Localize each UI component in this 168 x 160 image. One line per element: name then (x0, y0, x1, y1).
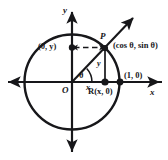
y-axis-label: y (63, 6, 67, 15)
unit-point-label: (1, 0) (124, 71, 142, 80)
origin-label: O (62, 86, 69, 95)
point-marker-P (102, 45, 108, 51)
x-axis-label: x (150, 88, 155, 97)
point-p-label: P (100, 32, 106, 41)
point-marker-y-intercept (69, 44, 75, 50)
point-marker-R (101, 78, 108, 85)
point-r-label: R(x, 0) (88, 87, 113, 96)
segment-x-label: x (86, 84, 90, 92)
point-p-coordinates-label: (cos θ, sin θ) (113, 41, 158, 50)
angle-theta-label: θ (79, 71, 83, 80)
unit-circle-figure: y x O P (cos θ, sin θ) R(x, 0) (1, 0) (0… (0, 0, 168, 160)
y-intercept-point-label: (0, y) (38, 42, 56, 51)
point-marker-unit (117, 79, 124, 86)
segment-y-label: y (97, 60, 101, 68)
angle-arc-theta (87, 68, 92, 82)
figure-canvas (0, 0, 168, 160)
